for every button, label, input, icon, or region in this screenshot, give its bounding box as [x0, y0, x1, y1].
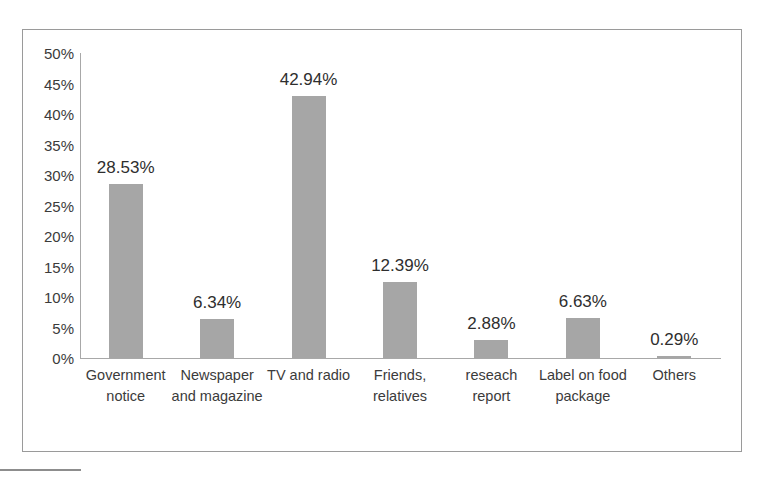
bar-value-label: 6.63% [559, 293, 607, 310]
bar[interactable] [566, 318, 600, 358]
bar-slot: 42.94% [263, 53, 354, 358]
scan-artifact-rule [0, 469, 81, 471]
bar-slot: 6.34% [171, 53, 262, 358]
y-axis-tick: 40% [28, 107, 74, 122]
bar-value-label: 28.53% [97, 159, 155, 176]
bar-value-label: 2.88% [467, 315, 515, 332]
bar-slot: 2.88% [446, 53, 537, 358]
y-axis-tick: 10% [28, 290, 74, 305]
bar-value-label: 12.39% [371, 257, 429, 274]
x-axis-category-label: Others [629, 365, 720, 386]
plot-area: 28.53%6.34%42.94%12.39%2.88%6.63%0.29% [80, 53, 720, 358]
y-axis-tick: 35% [28, 137, 74, 152]
bar[interactable] [292, 96, 326, 358]
y-axis-tick: 25% [28, 198, 74, 213]
bar-slot: 28.53% [80, 53, 171, 358]
bar[interactable] [657, 356, 691, 358]
y-axis-tick: 50% [28, 46, 74, 61]
x-axis-category-label: Newspaper and magazine [171, 365, 262, 407]
x-axis-category-label: Label on food package [537, 365, 628, 407]
bar-slot: 6.63% [537, 53, 628, 358]
x-axis-category-label: Government notice [80, 365, 171, 407]
bar-slot: 12.39% [354, 53, 445, 358]
y-axis-tick: 45% [28, 76, 74, 91]
y-axis-tick: 5% [28, 320, 74, 335]
bar[interactable] [200, 319, 234, 358]
y-axis-tick: 20% [28, 229, 74, 244]
bar-value-label: 42.94% [280, 71, 338, 88]
x-axis-category-labels: Government noticeNewspaper and magazineT… [80, 365, 720, 451]
y-axis-tick: 0% [28, 351, 74, 366]
bar-slot: 0.29% [629, 53, 720, 358]
y-axis-tick-labels: 50%45%40%35%30%25%20%15%10%5%0% [22, 53, 74, 358]
x-axis-line [80, 358, 721, 359]
x-axis-category-label: Friends, relatives [354, 365, 445, 407]
y-axis-tick: 30% [28, 168, 74, 183]
x-axis-category-label: TV and radio [263, 365, 354, 386]
y-axis-tick: 15% [28, 259, 74, 274]
x-axis-category-label: reseach report [446, 365, 537, 407]
bar-value-label: 6.34% [193, 294, 241, 311]
bar[interactable] [383, 282, 417, 358]
bar[interactable] [109, 184, 143, 358]
bar[interactable] [474, 340, 508, 358]
bar-value-label: 0.29% [650, 331, 698, 348]
